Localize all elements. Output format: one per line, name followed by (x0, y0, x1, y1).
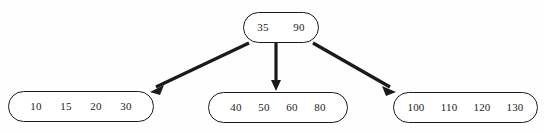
leaf-right-key-0: 100 (405, 102, 427, 113)
leaf-node-right[interactable]: 100 110 120 130 (393, 92, 538, 123)
leaf-node-right-keys: 100 110 120 130 (405, 102, 526, 113)
leaf-left-key-0: 10 (27, 101, 45, 112)
root-key-0: 35 (250, 22, 276, 33)
leaf-right-key-1: 110 (438, 102, 460, 113)
btree-diagram: 35 90 10 15 20 30 40 50 60 80 100 110 12… (0, 0, 544, 133)
edge-root-to-middle (271, 43, 281, 91)
leaf-node-left[interactable]: 10 15 20 30 (8, 91, 154, 122)
root-node-keys: 35 90 (250, 22, 312, 33)
root-key-1: 90 (286, 22, 312, 33)
leaf-left-key-1: 15 (57, 101, 75, 112)
leaf-node-middle-keys: 40 50 60 80 (228, 102, 328, 113)
leaf-left-key-3: 30 (117, 101, 135, 112)
leaf-middle-key-0: 40 (228, 102, 244, 113)
leaf-left-key-2: 20 (87, 101, 105, 112)
edge-root-to-right (313, 43, 396, 96)
leaf-middle-key-1: 50 (256, 102, 272, 113)
leaf-middle-key-2: 60 (284, 102, 300, 113)
root-node[interactable]: 35 90 (243, 12, 319, 43)
edge-root-to-left (150, 43, 249, 95)
leaf-node-middle[interactable]: 40 50 60 80 (208, 92, 348, 123)
leaf-right-key-2: 120 (471, 102, 493, 113)
leaf-middle-key-3: 80 (312, 102, 328, 113)
leaf-node-left-keys: 10 15 20 30 (27, 101, 135, 112)
leaf-right-key-3: 130 (504, 102, 526, 113)
